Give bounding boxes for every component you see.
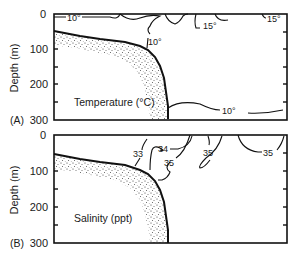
figure-canvas: 10° 10° 15° 15° 10° 0 100 200 300 Depth … bbox=[0, 0, 297, 260]
panel-salinity: 33 34 35 35 35 0 100 200 300 Depth (m) (… bbox=[8, 129, 287, 249]
contour-label: 15° bbox=[267, 14, 281, 24]
y-tick-label: 0 bbox=[40, 129, 46, 141]
contour-label: 35 bbox=[164, 158, 174, 168]
sediment-fill bbox=[54, 154, 168, 243]
contour-label: 33 bbox=[133, 149, 143, 159]
contour-label: 15° bbox=[203, 21, 217, 31]
isotherm-15-mid2 bbox=[215, 14, 230, 20]
y-axis-title: Depth (m) bbox=[8, 44, 20, 93]
panel-title: Salinity (ppt) bbox=[74, 212, 132, 224]
y-axis-title: Depth (m) bbox=[8, 166, 20, 215]
panel-title: Temperature (°C) bbox=[74, 96, 155, 108]
contour-label: 34 bbox=[158, 144, 168, 154]
contour-label: 10° bbox=[222, 106, 236, 116]
y-tick-label: 200 bbox=[30, 78, 48, 90]
contour-label: 10° bbox=[148, 37, 162, 47]
panel-tag: (A) bbox=[10, 114, 24, 126]
isohaline-35-offshore bbox=[238, 135, 284, 152]
y-tick-label: 100 bbox=[30, 43, 48, 55]
y-tick-label: 300 bbox=[30, 114, 48, 126]
contour-label: 35 bbox=[263, 148, 273, 158]
y-tick-label: 100 bbox=[30, 165, 48, 177]
panel-tag: (B) bbox=[10, 237, 24, 249]
y-tick-label: 0 bbox=[40, 8, 46, 20]
isotherm-15-mid bbox=[165, 14, 200, 28]
y-tick-label: 200 bbox=[30, 201, 48, 213]
panel-temperature: 10° 10° 15° 15° 10° 0 100 200 300 Depth … bbox=[8, 8, 287, 126]
contour-label: 35 bbox=[203, 148, 213, 158]
y-tick-label: 300 bbox=[30, 237, 48, 249]
